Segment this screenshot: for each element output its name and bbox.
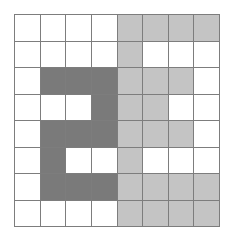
grid-cell-empty <box>193 147 219 174</box>
grid-cell-empty <box>168 94 194 121</box>
grid-cell-empty <box>168 147 194 174</box>
grid-cell-empty <box>91 41 117 68</box>
grid-cell-empty <box>142 41 168 68</box>
grid-cell-light-gray <box>117 173 143 200</box>
grid-cell-empty <box>14 120 40 147</box>
grid-cell-empty <box>40 94 66 121</box>
pixel-grid <box>14 14 220 227</box>
grid-cell-light-gray <box>168 173 194 200</box>
grid-cell-empty <box>193 41 219 68</box>
grid-cell-light-gray <box>117 67 143 94</box>
grid-cell-empty <box>91 14 117 41</box>
grid-cell-light-gray <box>142 94 168 121</box>
grid-cell-light-gray <box>117 200 143 227</box>
figure-canvas <box>0 0 231 235</box>
grid-cell-dark-gray <box>40 120 66 147</box>
grid-cell-empty <box>193 67 219 94</box>
grid-cell-dark-gray <box>65 173 91 200</box>
grid-cell-dark-gray <box>91 173 117 200</box>
grid-cell-dark-gray <box>91 67 117 94</box>
grid-cell-light-gray <box>142 14 168 41</box>
grid-cell-empty <box>14 94 40 121</box>
grid-cell-dark-gray <box>40 67 66 94</box>
grid-cell-light-gray <box>193 173 219 200</box>
grid-cell-empty <box>14 173 40 200</box>
grid-cell-light-gray <box>142 67 168 94</box>
grid-cell-empty <box>14 147 40 174</box>
grid-cell-empty <box>14 14 40 41</box>
grid-cell-empty <box>65 147 91 174</box>
grid-cell-light-gray <box>142 120 168 147</box>
grid-cell-empty <box>14 200 40 227</box>
grid-cell-light-gray <box>117 41 143 68</box>
grid-cell-light-gray <box>117 147 143 174</box>
grid-cell-empty <box>193 120 219 147</box>
grid-cell-light-gray <box>142 200 168 227</box>
grid-cell-light-gray <box>168 200 194 227</box>
grid-cell-dark-gray <box>40 147 66 174</box>
grid-cell-empty <box>65 41 91 68</box>
grid-cell-empty <box>14 41 40 68</box>
grid-cell-light-gray <box>168 120 194 147</box>
grid-cell-light-gray <box>117 14 143 41</box>
grid-cell-empty <box>193 94 219 121</box>
grid-cell-empty <box>65 14 91 41</box>
grid-cell-dark-gray <box>40 173 66 200</box>
grid-cell-empty <box>91 200 117 227</box>
grid-cell-light-gray <box>168 14 194 41</box>
grid-cell-empty <box>168 41 194 68</box>
grid-cell-dark-gray <box>91 94 117 121</box>
grid-cell-empty <box>40 200 66 227</box>
grid-cell-empty <box>65 94 91 121</box>
grid-cell-light-gray <box>117 120 143 147</box>
grid-cell-dark-gray <box>65 120 91 147</box>
grid-cell-empty <box>40 41 66 68</box>
grid-cell-light-gray <box>193 200 219 227</box>
grid-cell-empty <box>65 200 91 227</box>
grid-cell-dark-gray <box>65 67 91 94</box>
grid-cell-light-gray <box>142 173 168 200</box>
grid-cell-empty <box>142 147 168 174</box>
grid-cell-light-gray <box>168 67 194 94</box>
grid-cell-light-gray <box>117 94 143 121</box>
grid-cell-empty <box>91 147 117 174</box>
grid-cell-empty <box>14 67 40 94</box>
grid-cell-light-gray <box>193 14 219 41</box>
grid-cell-empty <box>40 14 66 41</box>
grid-cell-dark-gray <box>91 120 117 147</box>
